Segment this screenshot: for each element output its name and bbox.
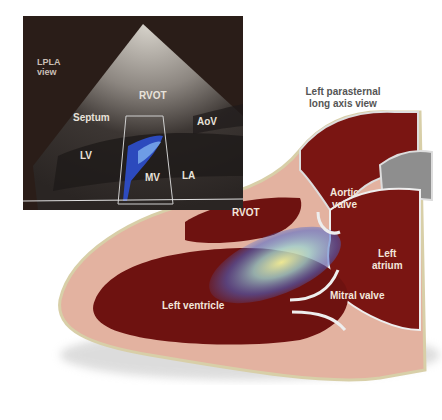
lv-label: LV bbox=[80, 150, 92, 161]
view-label: LPLA view bbox=[37, 57, 61, 77]
echocardiogram-panel: LPLA view RVOT Septum AoV LV MV LA bbox=[23, 16, 243, 210]
rvot-label: RVOT bbox=[139, 90, 167, 101]
aov-label: AoV bbox=[197, 116, 217, 127]
figure-title: Left parasternal long axis view bbox=[288, 86, 398, 110]
left-ventricle-label: Left ventricle bbox=[162, 300, 224, 312]
rvot-illustration-label: RVOT bbox=[232, 207, 260, 219]
mv-label: MV bbox=[145, 172, 160, 183]
ultrasound-sector-image bbox=[23, 16, 243, 210]
aortic-valve-label: Aortic valve bbox=[330, 187, 359, 211]
la-label: LA bbox=[182, 170, 195, 181]
left-atrium-label: Left atrium bbox=[372, 248, 403, 272]
septum-label: Septum bbox=[73, 112, 110, 123]
mitral-valve-label: Mitral valve bbox=[330, 290, 384, 302]
